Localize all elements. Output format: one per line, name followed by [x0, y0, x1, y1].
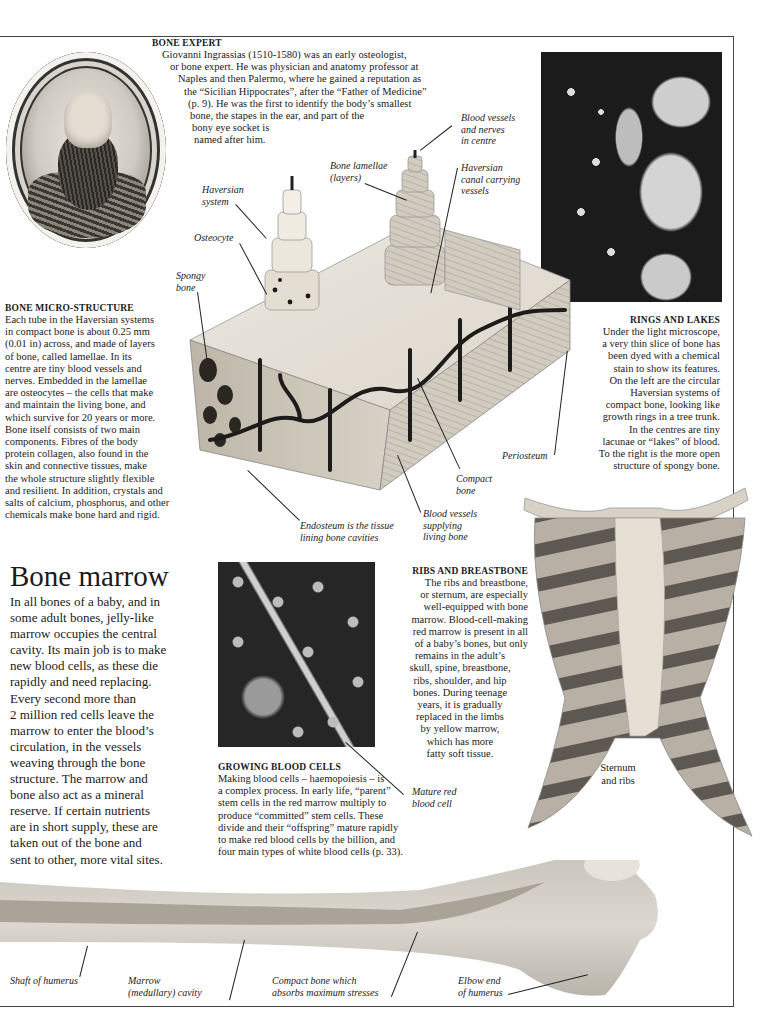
caption-line: and maintain the living bone, and — [5, 399, 205, 411]
caption-line: years, it is gradually — [392, 699, 528, 711]
label-compact-bone: Compact bone — [456, 473, 492, 496]
bone-expert-line: named after him. — [152, 134, 512, 146]
body-line: are in short supply, these are — [10, 819, 210, 835]
bottom-rule — [0, 1006, 734, 1007]
body-line: cavity. Its main job is to make — [10, 642, 210, 658]
body-line: structure. The marrow and — [10, 771, 210, 787]
label-compact-bone-humerus: Compact bone which absorbs maximum stres… — [272, 975, 378, 998]
bone-marrow-section: Bone marrow In all bones of a baby, and … — [10, 560, 210, 868]
body-line: circulation, in the vessels — [10, 739, 210, 755]
caption-line: skin and connective tissues, make — [5, 460, 205, 472]
bone-expert-line: Naples and then Palermo, where he gained… — [152, 73, 512, 85]
caption-line: the whole structure slightly flexible — [5, 473, 205, 485]
body-line: rapidly and need replacing. — [10, 674, 210, 690]
caption-line: salts of calcium, phosphorus, and other — [5, 497, 205, 509]
body-line: new blood cells, as these die — [10, 658, 210, 674]
ribs-and-breastbone-caption: RIBS AND BREASTBONE The ribs and breastb… — [392, 566, 528, 760]
caption-line: The ribs and breastbone, — [392, 577, 528, 589]
sternum-label: Sternum and ribs — [588, 762, 648, 787]
body-line: Every second more than — [10, 691, 210, 707]
body-line: marrow occupies the central — [10, 626, 210, 642]
portrait-medallion-image — [6, 52, 166, 248]
ribs-and-breastbone-heading: RIBS AND BREASTBONE — [392, 566, 528, 576]
caption-line: been dyed with a chemical — [570, 350, 720, 362]
bone-expert-line: bony eye socket is — [152, 122, 512, 134]
growing-blood-cells-caption: GROWING BLOOD CELLS Making blood cells –… — [218, 762, 418, 858]
caption-line: four main types of white blood cells (p.… — [218, 846, 418, 858]
caption-line: components. Fibres of the body — [5, 436, 205, 448]
caption-line: On the left are the circular — [570, 375, 720, 387]
caption-line: fatty soft tissue. — [392, 748, 528, 760]
caption-line: chemicals make bone hard and rigid. — [5, 509, 205, 521]
caption-line: replaced in the limbs — [392, 711, 528, 723]
caption-line: skull, spine, breastbone, — [392, 662, 528, 674]
body-line: 2 million red cells leave the — [10, 707, 210, 723]
label-mature-red-blood-cell: Mature red blood cell — [412, 786, 457, 809]
label-elbow-end: Elbow end of humerus — [458, 975, 503, 998]
caption-line: structure of spongy bone. — [570, 460, 720, 472]
caption-line: Bone itself consists of two main — [5, 424, 205, 436]
bone-expert-line: Giovanni Ingrassias (1510-1580) was an e… — [152, 49, 512, 61]
top-rule — [0, 36, 734, 37]
bone-micro-structure-heading: BONE MICRO-STRUCTURE — [5, 303, 205, 313]
growing-blood-cells-heading: GROWING BLOOD CELLS — [218, 762, 418, 772]
caption-line: to make red blood cells by the billion, … — [218, 834, 418, 846]
body-line: In all bones of a baby, and in — [10, 594, 210, 610]
body-line: weaving through the bone — [10, 755, 210, 771]
caption-line: To the right is the more open — [570, 448, 720, 460]
caption-line: which survive for 20 years or more. — [5, 412, 205, 424]
body-line: some adult bones, jelly-like — [10, 610, 210, 626]
blood-cells-micrograph-image — [218, 562, 375, 747]
caption-line: Making blood cells – haemopoiesis – is — [218, 773, 418, 785]
caption-line: well-equipped with bone — [392, 601, 528, 613]
caption-line: lacunae or “lakes” of blood. — [570, 436, 720, 448]
body-line: marrow to enter the blood’s — [10, 723, 210, 739]
caption-line: red marrow is present in all — [392, 626, 528, 638]
body-line: taken out of the bone and — [10, 835, 210, 851]
caption-line: or sternum, are especially — [392, 589, 528, 601]
bone-expert-heading: BONE EXPERT — [152, 38, 512, 48]
label-blood-vessels-supplying: Blood vessels supplying living bone — [423, 508, 477, 543]
label-haversian-canal: Haversian canal carrying vessels — [461, 162, 520, 197]
portrait-face — [64, 92, 112, 148]
caption-line: divide and their “offspring” mature rapi… — [218, 822, 418, 834]
caption-line: which has more — [392, 736, 528, 748]
label-endosteum: Endosteum is the tissue lining bone cavi… — [300, 520, 394, 543]
caption-line: growth rings in a tree trunk. — [570, 411, 720, 423]
caption-line: compact bone, looking like — [570, 399, 720, 411]
label-blood-vessels-nerves: Blood vessels and nerves in centre — [461, 112, 515, 147]
caption-line: and resilient. In addition, crystals and — [5, 485, 205, 497]
caption-line: centre are tiny blood vessels and — [5, 363, 205, 375]
label-marrow-cavity: Marrow (medullary) cavity — [128, 975, 202, 998]
caption-line: nerves. Embedded in the lamellae — [5, 375, 205, 387]
caption-line: a very thin slice of bone has — [570, 338, 720, 350]
caption-line: Haversian systems of — [570, 387, 720, 399]
caption-line: stem cells in the red marrow multiply to — [218, 797, 418, 809]
caption-line: produce “committed” stem cells. These — [218, 810, 418, 822]
caption-line: by yellow marrow, — [392, 723, 528, 735]
caption-line: are osteocytes – the cells that make — [5, 387, 205, 399]
bone-expert-line: bone, the stapes in the ear, and part of… — [152, 110, 512, 122]
label-periosteum: Periosteum — [502, 450, 548, 462]
caption-line: remains in the adult’s — [392, 650, 528, 662]
rings-and-lakes-heading: RINGS AND LAKES — [570, 315, 720, 325]
caption-line: ribs, shoulder, and hip — [392, 675, 528, 687]
section-title: Bone marrow — [10, 560, 210, 592]
caption-line: protein collagen, also found in the — [5, 448, 205, 460]
caption-line: of bone, called lamellae. In its — [5, 351, 205, 363]
bone-micro-structure-caption: BONE MICRO-STRUCTURE Each tube in the Ha… — [5, 303, 205, 521]
bone-expert-line: or bone expert. He was physician and ana… — [152, 61, 512, 73]
bone-expert-line: (p. 9). He was the first to identify the… — [152, 98, 512, 110]
body-line: reserve. If certain nutrients — [10, 803, 210, 819]
rings-and-lakes-caption: RINGS AND LAKES Under the light microsco… — [570, 315, 720, 472]
caption-line: marrow. Blood-cell-making — [392, 614, 528, 626]
caption-line: of a baby’s bones, but only — [392, 638, 528, 650]
caption-line: In the centres are tiny — [570, 424, 720, 436]
caption-line: (0.01 in) across, and made of layers — [5, 338, 205, 350]
caption-line: Under the light microscope, — [570, 326, 720, 338]
caption-line: a complex process. In early life, “paren… — [218, 785, 418, 797]
label-spongy-bone: Spongy bone — [176, 270, 205, 293]
label-bone-lamellae: Bone lamellae (layers) — [330, 160, 387, 183]
bone-expert-line: the “Sicilian Hippocrates”, after the “F… — [152, 86, 512, 98]
label-haversian-system: Haversian system — [202, 184, 244, 207]
